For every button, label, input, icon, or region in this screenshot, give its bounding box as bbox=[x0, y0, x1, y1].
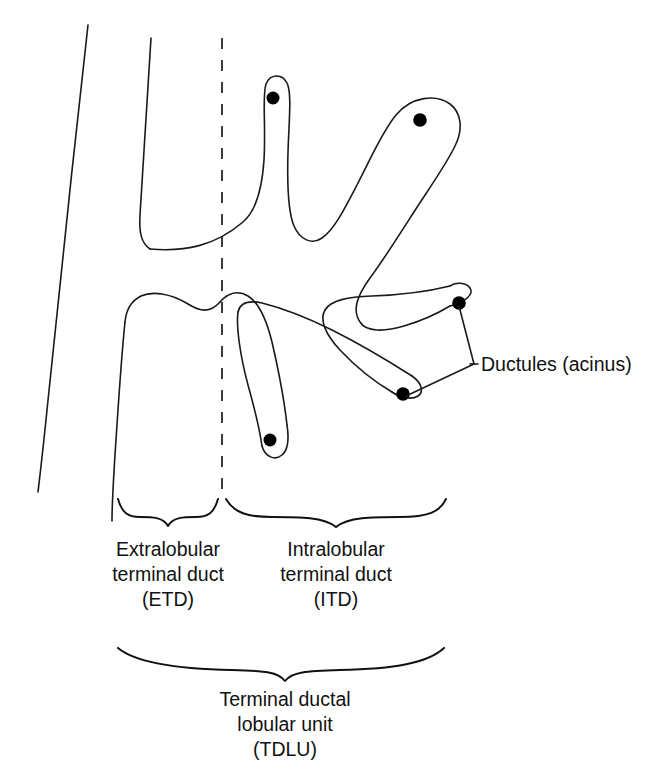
etd-brace bbox=[118, 499, 218, 526]
lobule-lobe5-left-edge bbox=[237, 312, 262, 446]
tdlu-anatomy-illustration: Ductules (acinus) Extralobular terminal … bbox=[0, 0, 659, 774]
ductules-leader-from-acinus-3 bbox=[459, 306, 474, 364]
itd-label-line-3: (ITD) bbox=[314, 588, 358, 610]
tdlu-brace bbox=[118, 648, 444, 681]
itd-label-line-2: terminal duct bbox=[280, 563, 392, 585]
diagram-canvas: Ductules (acinus) Extralobular terminal … bbox=[0, 0, 659, 774]
itd-label-line-1: Intralobular bbox=[287, 538, 385, 560]
tdlu-label-line-2: lobular unit bbox=[237, 713, 333, 735]
acinus-dot-5 bbox=[264, 434, 277, 447]
major-duct-outer-wall bbox=[38, 25, 88, 492]
acinus-dot-4 bbox=[396, 387, 410, 401]
major-duct-inner-wall-upper bbox=[140, 38, 151, 249]
major-duct-inner-wall-lower bbox=[112, 322, 125, 521]
etd-label-line-3: (ETD) bbox=[142, 588, 194, 610]
lobule-outline-lower-left bbox=[125, 293, 220, 322]
lobule-lobe4-lower-edge bbox=[238, 302, 412, 376]
itd-brace bbox=[226, 499, 446, 527]
acinus-dot-2 bbox=[413, 113, 427, 127]
lobule-lobe3-upper-edge bbox=[323, 286, 450, 392]
ductules-callout-label: Ductules (acinus) bbox=[481, 353, 632, 375]
tdlu-label-line-3: (TDLU) bbox=[253, 738, 317, 760]
etd-label-line-1: Extralobular bbox=[116, 538, 221, 560]
etd-label-line-2: terminal duct bbox=[112, 563, 224, 585]
tdlu-label-line-1: Terminal ductal bbox=[219, 688, 350, 710]
acinus-dot-1 bbox=[267, 92, 280, 105]
